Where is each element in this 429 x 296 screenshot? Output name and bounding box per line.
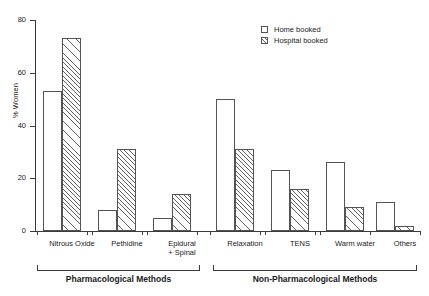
y-axis-tick [30,73,35,74]
x-axis-tick [37,231,38,235]
legend-label: Home booked [274,25,321,34]
bar-hospital-booked [117,149,136,231]
x-axis-tick [147,231,148,235]
bar-home-booked [216,99,235,231]
y-axis-tick [30,126,35,127]
bar-home-booked [271,170,290,231]
bar-home-booked [153,218,172,231]
group-bracket [213,265,417,271]
x-axis-tick [210,231,211,235]
bar-hospital-booked [235,149,254,231]
bar-chart: % Women 020406080 Nitrous OxidePethidine… [0,0,429,296]
x-axis-tick [265,231,266,235]
group-label: Non-Pharmacological Methods [213,274,417,284]
x-axis-tick [92,231,93,235]
bar-hospital-booked [172,194,191,231]
chart-legend: Home bookedHospital booked [261,24,328,46]
bar-hospital-booked [345,207,364,231]
y-axis-tick [30,20,35,21]
group-bracket [37,265,200,271]
y-axis-tick [30,231,35,232]
group-label: Pharmacological Methods [37,274,200,284]
y-axis-tick [30,178,35,179]
x-axis-tick [142,231,143,235]
x-axis-tick [370,231,371,235]
x-axis-tick [315,231,316,235]
y-axis-tick-label: 40 [4,121,26,130]
y-axis-tick-label: 0 [4,226,26,235]
bar-hospital-booked [395,226,414,231]
bar-hospital-booked [62,38,81,231]
x-axis-tick [320,231,321,235]
legend-swatch-open [261,26,268,33]
legend-label: Hospital booked [274,36,328,45]
y-axis-tick-label: 60 [4,68,26,77]
x-axis-tick [197,231,198,235]
bar-home-booked [43,91,62,231]
legend-swatch-hatched [261,37,268,44]
y-axis-tick-label: 80 [4,15,26,24]
legend-item: Home booked [261,24,328,35]
y-axis-line [35,20,36,232]
bar-hospital-booked [290,189,309,231]
y-axis-tick-label: 20 [4,173,26,182]
x-axis-tick [87,231,88,235]
x-axis-tick [420,231,421,235]
bar-home-booked [376,202,395,231]
x-axis-tick [260,231,261,235]
bar-home-booked [326,162,345,231]
legend-item: Hospital booked [261,35,328,46]
bar-home-booked [98,210,117,231]
x-axis-category-label: Others [365,240,429,249]
